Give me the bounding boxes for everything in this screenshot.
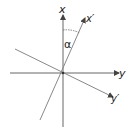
rotation-diagram: x x′ α y y′ <box>0 0 134 138</box>
diagram-canvas: x x′ α y y′ <box>0 0 134 138</box>
x-prime-label: x′ <box>85 13 95 24</box>
y-prime-label: y′ <box>110 93 120 104</box>
origin-point <box>62 72 65 75</box>
y-label: y <box>118 67 126 80</box>
angle-arc <box>63 30 80 33</box>
x-label: x <box>58 3 66 16</box>
angle-label: α <box>64 38 71 51</box>
